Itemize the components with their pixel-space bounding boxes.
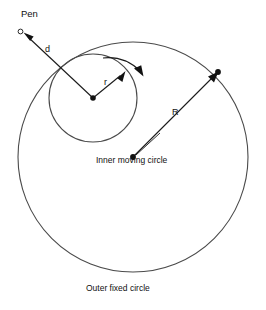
radius-r-label: r	[104, 78, 107, 87]
inner-moving-circle-label: Inner moving circle	[96, 156, 167, 165]
inner-circle-label-leader	[136, 133, 160, 155]
inner-circle-center-dot	[90, 95, 96, 101]
radius-R-endpoint-dot	[215, 69, 221, 75]
outer-fixed-circle-label: Outer fixed circle	[86, 284, 150, 293]
radius-R-label: R	[172, 108, 179, 117]
pen-label: Pen	[21, 9, 38, 19]
distance-d-arrowhead	[24, 33, 34, 42]
distance-d-arrow-line	[28, 37, 93, 98]
pen-point-marker	[18, 29, 23, 34]
spirograph-diagram: Pen d r R Inner moving circle Outer fixe…	[0, 0, 266, 310]
radius-R-arrow-line	[133, 77, 213, 157]
distance-d-label: d	[45, 45, 50, 54]
